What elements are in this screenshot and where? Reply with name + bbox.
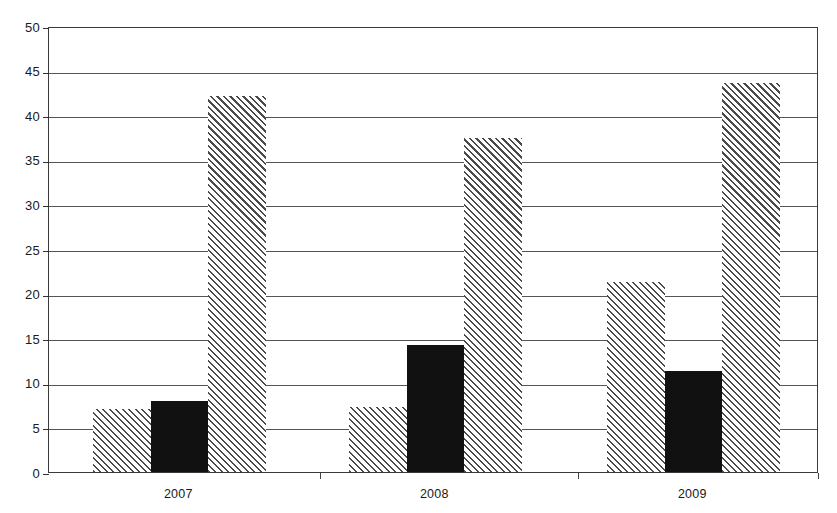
x-axis-tick-label: 2009 [678, 487, 707, 501]
y-axis-tick-label: 40 [10, 110, 40, 123]
gridline [49, 162, 817, 163]
y-axis-tick [43, 251, 49, 252]
y-axis-tick-label: 30 [10, 199, 40, 212]
bar-chart: 05101520253035404550 200720082009 [0, 0, 837, 513]
y-axis-tick [43, 206, 49, 207]
y-axis-tick [43, 474, 49, 475]
x-axis-tick [818, 473, 819, 479]
bar [93, 409, 151, 472]
y-axis-tick [43, 296, 49, 297]
x-axis-tick [578, 473, 579, 479]
x-axis-tick-label: 2008 [420, 487, 449, 501]
y-axis-tick-label: 50 [10, 21, 40, 34]
x-axis-tick-label: 2007 [164, 487, 193, 501]
plot-area [48, 27, 818, 473]
bar [607, 282, 665, 472]
y-axis-tick-label: 35 [10, 154, 40, 167]
gridline [49, 251, 817, 252]
y-axis-tick [43, 28, 49, 29]
gridline [49, 117, 817, 118]
bar [151, 401, 209, 472]
bar [722, 83, 780, 472]
y-axis-tick [43, 385, 49, 386]
gridline [49, 206, 817, 207]
x-axis-tick [320, 473, 321, 479]
gridline [49, 73, 817, 74]
y-axis-tick-label: 0 [10, 467, 40, 480]
bar [208, 96, 266, 472]
y-axis-tick-label: 25 [10, 244, 40, 257]
y-axis-tick-label: 15 [10, 333, 40, 346]
gridline [49, 296, 817, 297]
bar [464, 138, 522, 472]
y-axis-tick [43, 117, 49, 118]
gridline [49, 340, 817, 341]
y-axis-tick-label: 5 [10, 422, 40, 435]
bar [407, 345, 465, 472]
y-axis-tick [43, 340, 49, 341]
y-axis-tick-label: 10 [10, 377, 40, 390]
y-axis-tick-label: 45 [10, 65, 40, 78]
y-axis-tick [43, 429, 49, 430]
bar [665, 371, 723, 472]
bar [349, 407, 407, 472]
y-axis-label-group: 05101520253035404550 [0, 0, 40, 513]
y-axis-tick-label: 20 [10, 288, 40, 301]
y-axis-tick [43, 73, 49, 74]
y-axis-tick [43, 162, 49, 163]
